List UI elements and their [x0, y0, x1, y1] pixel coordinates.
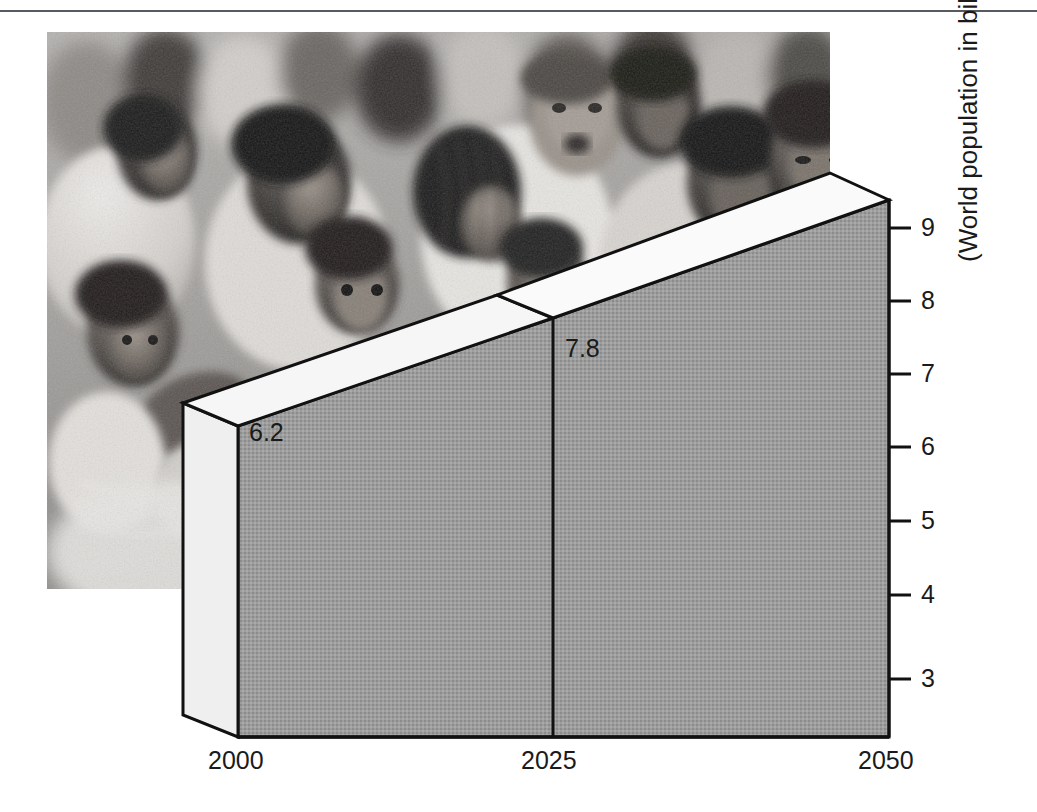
- y-axis-title-text: (World population in billions): [955, 0, 981, 262]
- y-axis-ticks: [889, 228, 911, 679]
- y-axis-title: (World population in billions): [955, 0, 981, 262]
- y-tick-label-9: 9: [921, 215, 935, 240]
- data-label-2025: 7.8: [565, 336, 600, 361]
- y-tick-label-5: 5: [921, 508, 935, 533]
- top-horizontal-rule: [0, 10, 1037, 12]
- crowd-photograph: [47, 32, 830, 589]
- x-tick-label-2000: 2000: [208, 748, 264, 773]
- x-tick-label-2025: 2025: [521, 748, 577, 773]
- y-tick-label-4: 4: [921, 582, 935, 607]
- y-tick-label-6: 6: [921, 434, 935, 459]
- y-tick-label-8: 8: [921, 288, 935, 313]
- y-tick-label-3: 3: [921, 666, 935, 691]
- y-tick-label-7: 7: [921, 361, 935, 386]
- x-tick-label-2050: 2050: [858, 748, 914, 773]
- data-label-2000: 6.2: [249, 420, 284, 445]
- figure-canvas: 9 8 7 6 5 4 3 (World population in billi…: [0, 0, 1037, 812]
